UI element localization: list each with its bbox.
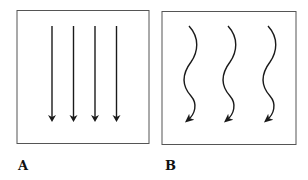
wavy-arrow [263, 26, 276, 120]
panel-b-label: B [165, 158, 176, 173]
diagram-canvas [0, 0, 308, 180]
wavy-arrow [223, 26, 236, 120]
panel-a-frame [17, 11, 149, 144]
wavy-arrow [184, 26, 197, 120]
panel-a-label: A [18, 158, 28, 173]
panel-b-frame [162, 12, 296, 145]
panel-b [162, 12, 296, 145]
panel-a [17, 11, 149, 144]
